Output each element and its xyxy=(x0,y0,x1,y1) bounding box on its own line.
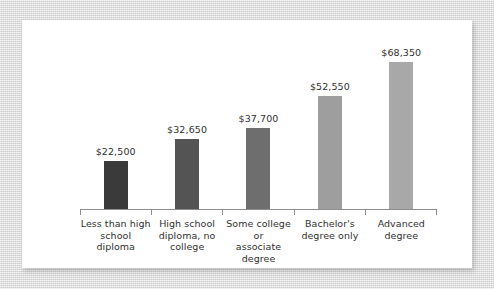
bar[interactable] xyxy=(104,161,128,209)
x-axis-tick xyxy=(294,209,295,215)
x-axis-label: Advanceddegree xyxy=(366,218,437,241)
bar-slot: $22,500 xyxy=(80,20,151,209)
x-axis-label: High schooldiploma, nocollege xyxy=(151,218,222,253)
bar[interactable] xyxy=(318,96,342,209)
x-axis-tick xyxy=(222,209,223,215)
bar-slot: $68,350 xyxy=(366,20,437,209)
x-axis-tick xyxy=(151,209,152,215)
bar-slot: $37,700 xyxy=(223,20,294,209)
chart-panel: $22,500 $32,650 $37,700 $52,550 $68,350 xyxy=(22,20,472,268)
bar-value-label: $32,650 xyxy=(167,124,207,135)
x-axis-tick xyxy=(365,209,366,215)
x-axis-label: Some college orassociatedegree xyxy=(223,218,294,264)
x-axis-tick xyxy=(436,209,437,215)
plot-area: $22,500 $32,650 $37,700 $52,550 $68,350 xyxy=(22,20,472,268)
bars-layer: $22,500 $32,650 $37,700 $52,550 $68,350 xyxy=(80,20,437,209)
x-axis-label: Less than highschool diploma xyxy=(80,218,151,253)
bar[interactable] xyxy=(246,128,270,209)
bar[interactable] xyxy=(389,62,413,209)
x-axis-line xyxy=(80,209,437,210)
x-axis-tick xyxy=(80,209,81,215)
bar-value-label: $68,350 xyxy=(381,47,421,58)
bar[interactable] xyxy=(175,139,199,209)
x-axis-label: Bachelor'sdegree only xyxy=(294,218,365,241)
x-axis-labels: Less than highschool diploma High school… xyxy=(80,218,437,268)
chart-screenshot: $22,500 $32,650 $37,700 $52,550 $68,350 xyxy=(0,0,494,289)
bar-value-label: $22,500 xyxy=(96,146,136,157)
bar-slot: $32,650 xyxy=(151,20,222,209)
bar-slot: $52,550 xyxy=(294,20,365,209)
bar-value-label: $52,550 xyxy=(310,81,350,92)
bar-value-label: $37,700 xyxy=(238,113,278,124)
